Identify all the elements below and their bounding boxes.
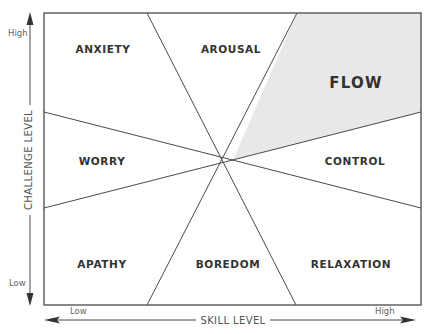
x-axis-title: SKILL LEVEL [200, 315, 265, 326]
region-label-arousal: AROUSAL [201, 43, 261, 55]
region-label-apathy: APATHY [77, 258, 126, 270]
x-axis-low-label: Low [70, 306, 87, 316]
up-arrow-icon [27, 12, 34, 25]
y-axis-low-label: Low [9, 278, 26, 288]
y-axis: High Low CHALLENGE LEVEL [8, 12, 34, 306]
y-axis-high-label: High [8, 28, 28, 38]
x-axis: Low High SKILL LEVEL [44, 306, 416, 326]
region-label-flow: FLOW [329, 74, 382, 92]
region-label-worry: WORRY [79, 155, 126, 167]
region-label-anxiety: ANXIETY [75, 43, 130, 55]
y-axis-title: CHALLENGE LEVEL [23, 110, 34, 210]
down-arrow-icon [27, 293, 34, 306]
region-label-boredom: BOREDOM [196, 258, 260, 270]
flow-region-fill [233, 13, 421, 160]
region-label-relaxation: RELAXATION [311, 258, 391, 270]
flow-diagram: ANXIETY AROUSAL FLOW WORRY CONTROL APATH… [0, 0, 429, 334]
region-label-control: CONTROL [325, 155, 385, 167]
x-axis-high-label: High [375, 306, 395, 316]
